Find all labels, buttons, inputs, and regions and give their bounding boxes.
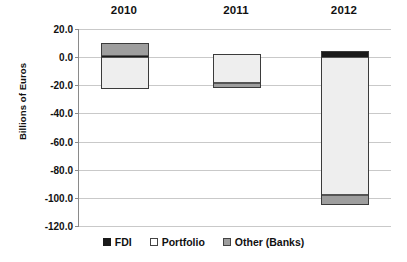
y-axis-tick-label: -80.0 (50, 164, 73, 175)
y-axis-tick (75, 113, 79, 114)
y-axis-tick (75, 142, 79, 143)
y-axis-tick-label: -100.0 (45, 192, 73, 203)
y-axis-tick (75, 198, 79, 199)
chart-legend: FDIPortfolioOther (Banks) (0, 236, 407, 248)
legend-swatch-icon (150, 238, 158, 246)
bar-segment-2010-portfolio[interactable] (101, 57, 149, 89)
category-label-2011: 2011 (212, 4, 260, 16)
legend-label: Other (Banks) (235, 236, 304, 248)
bar-segment-2010-other-banks[interactable] (101, 43, 149, 56)
y-axis-tick-label: -60.0 (50, 136, 73, 147)
category-label-2012: 2012 (320, 4, 368, 16)
legend-label: FDI (115, 236, 132, 248)
gridline (79, 226, 391, 227)
y-axis-tick-label: 0.0 (59, 52, 73, 63)
y-axis-tick-label: -120.0 (45, 221, 73, 232)
y-axis-tick (75, 226, 79, 227)
legend-item-portfolio[interactable]: Portfolio (150, 236, 205, 248)
y-axis-tick (75, 29, 79, 30)
bar-2011[interactable] (213, 29, 261, 226)
legend-swatch-icon (223, 238, 231, 246)
y-axis-tick-label: -20.0 (50, 80, 73, 91)
y-axis-tick-label: 20.0 (54, 24, 73, 35)
legend-item-other-banks[interactable]: Other (Banks) (223, 236, 304, 248)
legend-item-fdi[interactable]: FDI (103, 236, 132, 248)
y-axis-tick-label: -40.0 (50, 108, 73, 119)
bar-segment-2011-other-banks[interactable] (213, 83, 261, 88)
legend-swatch-icon (103, 238, 111, 246)
legend-label: Portfolio (162, 236, 205, 248)
y-axis-tick (75, 170, 79, 171)
y-axis-tick (75, 85, 79, 86)
bar-segment-2011-portfolio[interactable] (213, 54, 261, 83)
bar-2012[interactable] (321, 29, 369, 226)
stacked-bar-chart: Billions of Euros 201020112012 20.00.0-2… (0, 0, 407, 262)
plot-area: 20.00.0-20.0-40.0-60.0-80.0-100.0-120.0 (78, 29, 391, 226)
bar-2010[interactable] (101, 29, 149, 226)
y-axis-title: Billions of Euros (17, 42, 28, 162)
category-label-2010: 2010 (100, 4, 148, 16)
y-axis-tick (75, 57, 79, 58)
bar-segment-2012-other-banks[interactable] (321, 195, 369, 205)
bar-segment-2012-portfolio[interactable] (321, 57, 369, 195)
